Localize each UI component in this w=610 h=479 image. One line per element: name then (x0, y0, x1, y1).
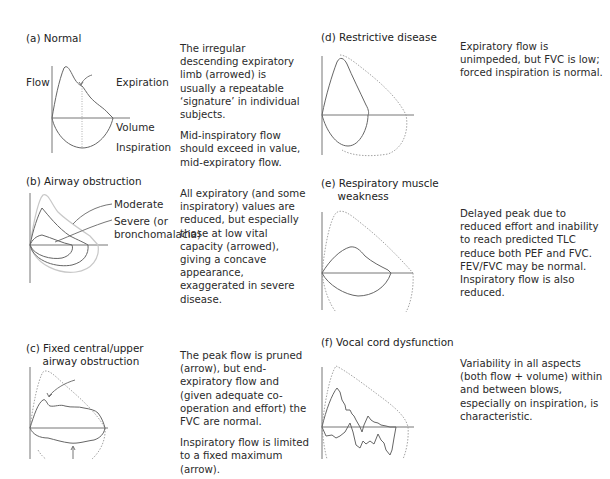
panel-f-description: Variability in all aspects (both flow + … (460, 357, 608, 431)
normal-reference-expiratory (322, 366, 408, 427)
normal-reference-inspiratory-right (403, 427, 408, 459)
expiratory-limb-variable (322, 388, 396, 432)
inspiratory-limb-variable (322, 423, 396, 455)
panel-f-desc-1: Variability in all aspects (both flow + … (460, 357, 608, 423)
